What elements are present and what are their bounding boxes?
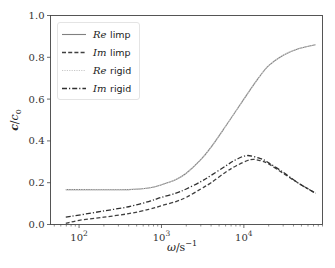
- y-axis-ticks: 0.00.20.40.60.81.0: [29, 10, 51, 230]
- y-tick-label: 1.0: [29, 10, 45, 21]
- legend-label-text: rigid: [110, 65, 131, 76]
- legend-label-text: limp: [110, 47, 131, 58]
- legend-label-text: limp: [110, 29, 131, 40]
- x-axis-label: ω/s−1: [167, 239, 197, 254]
- legend-label-math: Re: [92, 65, 107, 76]
- y-tick-label: 0.8: [29, 52, 45, 63]
- x-tick-label: 104: [235, 229, 253, 243]
- svg-text:c/c0: c/c0: [8, 109, 23, 131]
- legend-label-math: Re: [92, 29, 107, 40]
- svg-text:ω/s−1: ω/s−1: [167, 239, 197, 254]
- y-tick-label: 0.0: [29, 219, 45, 230]
- x-tick-label: 102: [70, 229, 88, 243]
- y-axis-label: c/c0: [8, 109, 23, 131]
- y-tick-label: 0.6: [29, 94, 45, 105]
- legend: RelimpImlimpRerigidImrigid: [58, 23, 140, 100]
- series-line-im-rigid: [66, 156, 316, 218]
- y-tick-label: 0.2: [29, 177, 45, 188]
- legend-label-math: Im: [92, 83, 106, 94]
- line-chart: 102103104 0.00.20.40.60.81.0 ω/s−1 c/c0 …: [0, 0, 335, 268]
- legend-label-text: rigid: [110, 83, 131, 94]
- y-tick-label: 0.4: [29, 135, 45, 146]
- legend-label-math: Im: [92, 47, 106, 58]
